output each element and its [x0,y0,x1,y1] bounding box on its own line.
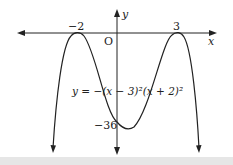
x-axis-label: x [208,36,214,47]
graph-figure: −2 3 O x y y = −(x − 3)²(x + 2)² −36 [0,0,233,165]
bottom-band [0,157,233,165]
equation-label: y = −(x − 3)²(x + 2)² [72,86,183,97]
y-intercept-label: −36 [94,120,117,131]
tick-label-minus-2: −2 [68,21,84,32]
x-axis-left-arrow [17,30,25,36]
origin-label: O [104,36,113,47]
tick-label-3: 3 [173,21,180,32]
y-axis-top-arrow [114,9,120,17]
curve-left-arrow [51,145,57,153]
curve-right-arrow [196,145,202,153]
y-axis-label: y [122,9,128,20]
graph-svg [0,0,233,165]
y-axis-bottom-arrow [114,147,120,155]
